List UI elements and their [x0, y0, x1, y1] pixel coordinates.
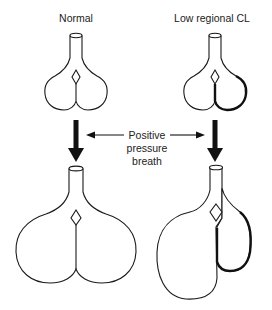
lungs-normal-after	[16, 166, 136, 283]
arrow-down-left	[68, 120, 84, 162]
lungs-low-cl-before	[184, 33, 246, 110]
label-breath: breath	[132, 155, 162, 167]
arrow-pointing-right	[170, 132, 205, 139]
label-pressure: pressure	[127, 142, 168, 154]
arrow-pointing-left	[86, 132, 124, 139]
label-normal: Normal	[59, 12, 93, 24]
lungs-normal-before	[45, 33, 107, 110]
lung-compliance-diagram: Normal Low regional CL Positive pressure…	[0, 0, 272, 310]
label-low-cl: Low regional CL	[174, 12, 250, 24]
arrow-down-right	[207, 120, 223, 162]
lungs-low-cl-after	[157, 165, 251, 299]
label-positive: Positive	[129, 129, 166, 141]
